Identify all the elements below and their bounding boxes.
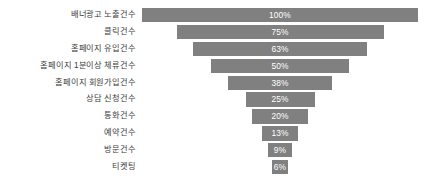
funnel-bar-track: 9% <box>142 143 418 157</box>
funnel-bar-value: 50% <box>271 59 288 73</box>
funnel-bar[interactable]: 6% <box>272 160 289 174</box>
funnel-bar[interactable]: 20% <box>252 109 307 123</box>
funnel-bar-value: 9% <box>274 143 286 157</box>
funnel-category-label: 예약건수 <box>10 126 142 140</box>
funnel-category-label: 티켓팅 <box>10 160 142 174</box>
funnel-category-label: 방문건수 <box>10 143 142 157</box>
funnel-category-label: 홈페이지 1분이상 체류건수 <box>10 59 142 73</box>
funnel-bar-value: 75% <box>271 25 288 39</box>
funnel-bar-track: 38% <box>142 76 418 90</box>
funnel-bar-track: 75% <box>142 25 418 39</box>
funnel-category-label: 배너광고 노출건수 <box>10 8 142 22</box>
funnel-row: 홈페이지 회원가입건수 38% <box>10 76 418 90</box>
funnel-bar-track: 50% <box>142 59 418 73</box>
funnel-bar-value: 6% <box>274 160 286 174</box>
funnel-category-label: 홈페이지 회원가입건수 <box>10 76 142 90</box>
funnel-bar-value: 100% <box>269 8 291 22</box>
funnel-bar-track: 100% <box>142 8 418 22</box>
funnel-bar-value: 25% <box>271 92 288 106</box>
funnel-bar-track: 6% <box>142 160 418 174</box>
funnel-bar[interactable]: 75% <box>177 25 384 39</box>
funnel-chart: 배너광고 노출건수 100% 클릭건수 75% 홈페이지 유입건수 63% 홈페… <box>0 0 428 191</box>
funnel-row: 티켓팅 6% <box>10 160 418 174</box>
funnel-row: 상담 신청건수 25% <box>10 92 418 106</box>
funnel-row: 예약건수 13% <box>10 126 418 140</box>
funnel-row: 클릭건수 75% <box>10 25 418 39</box>
funnel-bar-track: 20% <box>142 109 418 123</box>
funnel-bar[interactable]: 13% <box>262 126 298 140</box>
funnel-bar-track: 13% <box>142 126 418 140</box>
funnel-category-label: 통화건수 <box>10 109 142 123</box>
funnel-bar[interactable]: 100% <box>142 8 418 22</box>
funnel-category-label: 클릭건수 <box>10 25 142 39</box>
funnel-bar-value: 13% <box>271 126 288 140</box>
funnel-bar-value: 20% <box>271 109 288 123</box>
funnel-bar[interactable]: 63% <box>193 42 367 56</box>
funnel-bar[interactable]: 25% <box>246 92 315 106</box>
funnel-row: 통화건수 20% <box>10 109 418 123</box>
funnel-bar-value: 63% <box>271 42 288 56</box>
funnel-category-label: 홈페이지 유입건수 <box>10 42 142 56</box>
funnel-category-label: 상담 신청건수 <box>10 92 142 106</box>
funnel-bar-track: 25% <box>142 92 418 106</box>
funnel-row: 방문건수 9% <box>10 143 418 157</box>
funnel-bar[interactable]: 9% <box>268 143 293 157</box>
funnel-bar[interactable]: 38% <box>228 76 333 90</box>
funnel-row: 배너광고 노출건수 100% <box>10 8 418 22</box>
funnel-bar-track: 63% <box>142 42 418 56</box>
funnel-bar-value: 38% <box>271 76 288 90</box>
funnel-bar[interactable]: 50% <box>211 59 349 73</box>
funnel-row: 홈페이지 1분이상 체류건수 50% <box>10 59 418 73</box>
funnel-row: 홈페이지 유입건수 63% <box>10 42 418 56</box>
